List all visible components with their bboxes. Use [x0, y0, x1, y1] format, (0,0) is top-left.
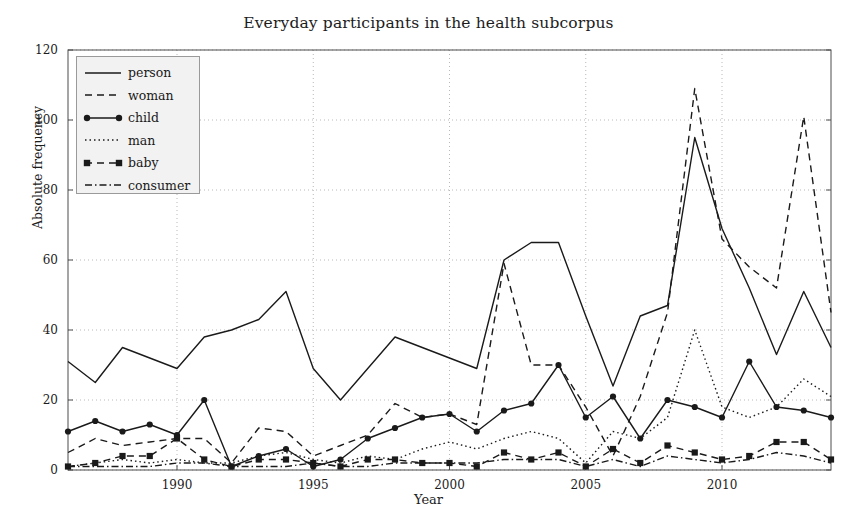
marker-baby — [637, 460, 643, 466]
marker-baby — [147, 453, 153, 459]
legend-item-person[interactable]: person — [77, 61, 201, 84]
x-tick-label: 2010 — [707, 478, 738, 492]
y-tick-label: 40 — [0, 323, 58, 337]
x-tick-label: 1990 — [162, 478, 193, 492]
y-tick-label: 20 — [0, 393, 58, 407]
legend-swatch-man — [82, 132, 124, 148]
marker-baby — [555, 449, 561, 455]
x-tick-label: 2005 — [570, 478, 601, 492]
marker-baby — [828, 456, 834, 462]
marker-child — [474, 428, 480, 434]
legend-label: baby — [128, 155, 159, 170]
legend-item-child[interactable]: child — [77, 106, 201, 129]
legend-label: consumer — [128, 178, 190, 193]
marker-child — [610, 393, 616, 399]
chart-legend: personwomanchildmanbabyconsumer — [76, 56, 200, 194]
legend-swatch-woman — [82, 87, 124, 103]
marker-baby — [746, 453, 752, 459]
marker-child — [828, 414, 834, 420]
marker-child — [719, 414, 725, 420]
marker-child — [283, 446, 289, 452]
marker-child — [801, 407, 807, 413]
marker-baby — [392, 456, 398, 462]
marker-baby — [719, 456, 725, 462]
marker-child — [65, 428, 71, 434]
x-tick-label: 2000 — [434, 478, 465, 492]
marker-child — [746, 358, 752, 364]
y-tick-label: 120 — [0, 43, 58, 57]
marker-baby — [474, 463, 480, 469]
legend-item-baby[interactable]: baby — [77, 151, 201, 174]
legend-item-man[interactable]: man — [77, 129, 201, 152]
marker-baby — [610, 446, 616, 452]
marker-baby — [365, 456, 371, 462]
marker-child — [446, 411, 452, 417]
marker-child — [664, 397, 670, 403]
marker-baby — [773, 439, 779, 445]
marker-baby — [501, 449, 507, 455]
marker-baby — [283, 456, 289, 462]
marker-child — [501, 407, 507, 413]
marker-child — [119, 428, 125, 434]
legend-swatch-person — [82, 65, 124, 81]
y-tick-label: 60 — [0, 253, 58, 267]
legend-swatch-consumer — [82, 177, 124, 193]
legend-item-woman[interactable]: woman — [77, 84, 201, 107]
marker-child — [365, 435, 371, 441]
marker-child — [337, 456, 343, 462]
y-tick-label: 0 — [0, 463, 58, 477]
y-tick-label: 100 — [0, 113, 58, 127]
marker-baby — [174, 435, 180, 441]
marker-child — [147, 421, 153, 427]
marker-child — [92, 418, 98, 424]
marker-baby — [256, 456, 262, 462]
marker-child — [392, 425, 398, 431]
marker-child — [583, 414, 589, 420]
marker-child — [201, 397, 207, 403]
marker-child — [692, 404, 698, 410]
y-tick-label: 80 — [0, 183, 58, 197]
legend-label: person — [128, 65, 171, 80]
legend-swatch-baby — [82, 155, 124, 171]
chart-figure: Everyday participants in the health subc… — [0, 0, 857, 532]
marker-baby — [692, 449, 698, 455]
legend-label: man — [128, 133, 155, 148]
marker-baby — [801, 439, 807, 445]
x-tick-label: 1995 — [298, 478, 329, 492]
marker-child — [419, 414, 425, 420]
legend-swatch-child — [82, 110, 124, 126]
marker-baby — [92, 460, 98, 466]
marker-child — [555, 362, 561, 368]
marker-baby — [119, 453, 125, 459]
legend-label: woman — [128, 88, 174, 103]
marker-baby — [664, 442, 670, 448]
marker-child — [528, 400, 534, 406]
marker-baby — [201, 456, 207, 462]
legend-label: child — [128, 110, 159, 125]
legend-item-consumer[interactable]: consumer — [77, 174, 201, 197]
